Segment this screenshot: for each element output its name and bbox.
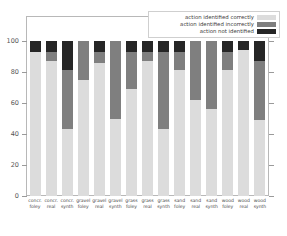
legend-item[interactable]: action identified incorrectly [152,21,276,28]
x-tick-label-line: synth [156,204,172,210]
bar-segment [46,41,57,52]
stacked-bar[interactable] [78,41,89,196]
y-tick-mark-right [269,103,274,104]
y-axis: 100806040200 [0,0,27,236]
bar-segment [126,41,137,52]
x-tick-label-line: grass [123,198,139,204]
bar-segment [174,70,185,196]
bar-segment [254,61,265,120]
x-tick-label: sandreal [188,198,204,220]
bar-segment [30,41,41,52]
bar-segment [62,129,73,196]
y-tick-label: 100 [7,38,19,45]
x-tick-label-line: concr. [59,198,75,204]
x-tick-label: woodsynth [252,198,268,220]
bar-segment [174,52,185,71]
bar-segment [46,61,57,196]
bar-slot [91,41,107,196]
stacked-bar[interactable] [62,41,73,196]
bar-segment [78,80,89,196]
bar-segment [62,70,73,129]
stacked-bar[interactable] [94,41,105,196]
stacked-bar[interactable] [158,41,169,196]
x-tick-label-line: grass [156,198,172,204]
legend-item[interactable]: action not identified [152,28,276,35]
x-tick-label: concr.synth [59,198,75,220]
stacked-bar[interactable] [238,41,249,196]
x-tick-label-line: synth [252,204,268,210]
x-tick-label-line: foley [220,204,236,210]
x-tick-label-line: foley [27,204,43,210]
x-tick-label-line: real [236,204,252,210]
bar-slot [75,41,91,196]
x-tick-label-line: gravel [75,198,91,204]
bar-segment [190,41,201,100]
x-tick-label-line: real [91,204,107,210]
x-tick-label-line: wood [220,198,236,204]
x-tick-label-line: real [139,204,155,210]
bar-slot [59,41,75,196]
x-tick-label-line: grass [139,198,155,204]
x-tick-label-line: synth [204,204,220,210]
bar-segment [78,41,89,80]
stacked-bar[interactable] [110,41,121,196]
x-tick-label: woodfoley [220,198,236,220]
bar-segment [254,41,265,61]
x-tick-label: grasssynth [156,198,172,220]
bar-segment [94,52,105,63]
bar-segment [62,41,73,70]
x-tick-label: gravelfoley [75,198,91,220]
legend-item[interactable]: action identified correctly [152,14,276,21]
bar-segment [158,52,169,130]
bar-slot [172,41,188,196]
x-tick-label-line: concr. [27,198,43,204]
x-tick-label-line: synth [107,204,123,210]
bar-slot [43,41,59,196]
legend-label: action identified incorrectly [180,22,254,27]
stacked-bar[interactable] [254,41,265,196]
bar-slot [236,41,252,196]
y-tick-label: 60 [11,100,19,107]
bars-area [27,41,268,196]
bar-slot [123,41,139,196]
stacked-bar[interactable] [222,41,233,196]
x-tick-label-line: real [188,204,204,210]
bar-slot [188,41,204,196]
x-tick-label: woodreal [236,198,252,220]
bar-segment [222,70,233,196]
stacked-bar[interactable] [206,41,217,196]
bar-segment [126,52,137,89]
x-tick-label-line: real [43,204,59,210]
bar-segment [110,119,121,197]
x-tick-label-line: gravel [107,198,123,204]
x-tick-label: gravelreal [91,198,107,220]
bar-segment [206,109,217,196]
x-tick-label-line: concr. [43,198,59,204]
x-tick-label: grassreal [139,198,155,220]
legend-swatch [257,15,276,20]
x-tick-label: grassfoley [123,198,139,220]
bar-segment [30,52,41,196]
stacked-bar[interactable] [174,41,185,196]
x-tick-label-line: gravel [91,198,107,204]
stacked-bar[interactable] [142,41,153,196]
y-tick-label: 40 [11,131,19,138]
bar-segment [142,52,153,61]
stacked-bar-chart: 100806040200 concr.foleyconcr.realconcr.… [0,0,287,236]
x-tick-label: concr.real [43,198,59,220]
x-tick-label-line: synth [59,204,75,210]
stacked-bar[interactable] [190,41,201,196]
bar-segment [126,89,137,196]
stacked-bar[interactable] [30,41,41,196]
x-tick-label: sandfoley [172,198,188,220]
x-tick-label-line: foley [75,204,91,210]
bar-segment [158,129,169,196]
x-tick-label: gravelsynth [107,198,123,220]
bar-segment [206,41,217,109]
bar-segment [142,41,153,52]
stacked-bar[interactable] [126,41,137,196]
x-axis-labels: concr.foleyconcr.realconcr.synthgravelfo… [27,198,268,220]
bar-slot [27,41,43,196]
bar-segment [174,41,185,52]
stacked-bar[interactable] [46,41,57,196]
